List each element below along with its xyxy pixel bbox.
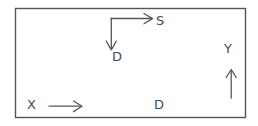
label-s: S: [156, 14, 165, 27]
outer-rectangle: [16, 9, 246, 118]
x-arrow-group: [49, 101, 82, 112]
diagram-vector-layer: [0, 0, 258, 126]
label-d-lower: D: [154, 98, 165, 111]
y-arrow-group: [226, 70, 236, 99]
label-x: X: [27, 98, 36, 111]
diagram-canvas: S D X D Y: [0, 0, 258, 126]
label-y: Y: [224, 42, 232, 55]
elbow-arrow-group: [106, 14, 152, 50]
label-d-upper: D: [112, 50, 123, 63]
